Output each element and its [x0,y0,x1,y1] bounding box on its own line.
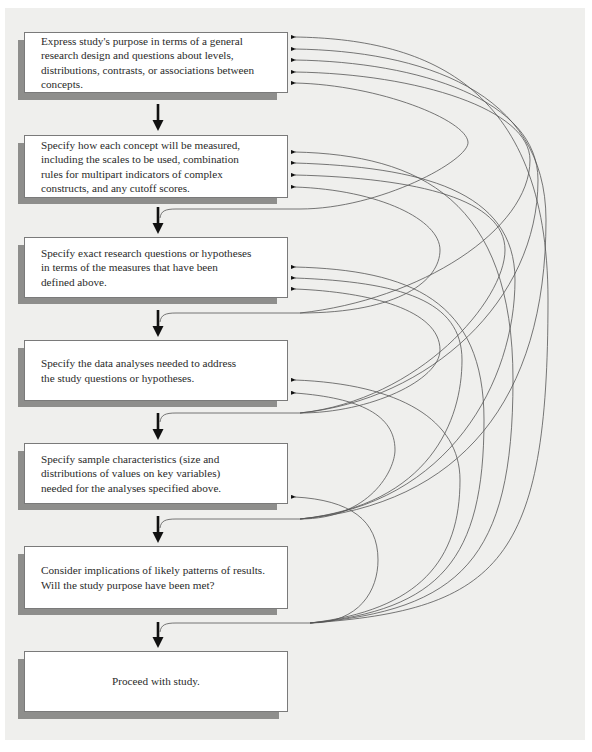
down-arrow-icon [153,310,164,337]
down-arrow-icon [153,207,164,234]
connectors [0,0,592,752]
down-arrow-icon [153,516,164,543]
down-arrow-icon [153,104,164,131]
down-arrow-icon [153,622,164,648]
feedback-loops [160,37,548,632]
